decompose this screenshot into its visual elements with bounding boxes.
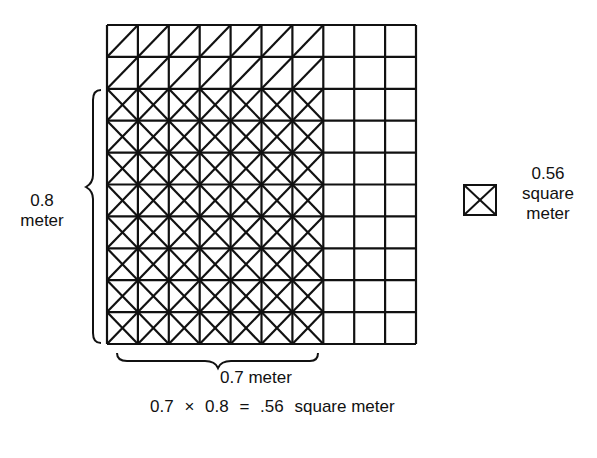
equation-result: .56 [260,397,284,416]
grid-diagram [0,0,597,458]
legend-label: 0.56 square meter [508,164,588,224]
legend-unit-1: square [508,184,588,204]
equation-op: × [184,397,194,416]
equation-b: 0.8 [205,397,229,416]
legend-unit-square-icon [464,185,496,215]
legend-unit-2: meter [508,204,588,224]
legend-value: 0.56 [508,164,588,184]
height-value: 0.8 [14,191,70,211]
equation: 0.7 × 0.8 = .56 square meter [150,397,401,417]
equation-unit: square meter [294,397,394,416]
height-unit: meter [14,211,70,231]
equation-a: 0.7 [150,397,174,416]
width-label: 0.7 meter [196,368,316,388]
equation-eq: = [239,397,249,416]
unit-grid [107,25,416,344]
height-brace [86,90,101,343]
height-label: 0.8 meter [14,191,70,231]
width-brace [117,353,318,368]
